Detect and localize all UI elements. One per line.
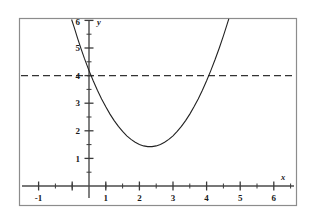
- y-tick-label: 4: [76, 71, 81, 81]
- x-tick-label: 4: [204, 193, 209, 203]
- x-tick-label: 6: [272, 193, 277, 203]
- x-axis-tick-labels: -1 1 2 3 4 5 6: [35, 193, 277, 203]
- y-axis-label: y: [96, 17, 101, 27]
- graph-figure: -1 1 2 3 4 5 6 1 2 3 4 5 6 y x: [0, 0, 309, 220]
- x-tick-label: -1: [35, 193, 43, 203]
- x-tick-label: 3: [171, 193, 176, 203]
- x-tick-label: 5: [238, 193, 243, 203]
- parabola-curve: [72, 19, 229, 147]
- y-tick-label: 2: [76, 126, 81, 136]
- coordinate-plane-plot: -1 1 2 3 4 5 6 1 2 3 4 5 6 y x: [0, 0, 309, 220]
- y-tick-label: 1: [76, 154, 81, 164]
- x-axis-label: x: [280, 172, 286, 182]
- y-tick-label: 6: [76, 17, 81, 27]
- x-tick-label: 1: [104, 193, 109, 203]
- y-tick-label: 3: [76, 98, 81, 108]
- y-tick-label: 5: [76, 43, 81, 53]
- x-tick-label: 2: [137, 193, 142, 203]
- plot-frame: [20, 19, 297, 206]
